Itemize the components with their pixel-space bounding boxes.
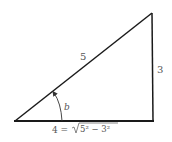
- hypotenuse-line: [15, 13, 152, 121]
- base-label-radicand: 5² − 3²: [80, 124, 110, 134]
- angle-label: b: [64, 102, 70, 112]
- angle-arc-icon: [54, 93, 62, 121]
- vertical-leg-label: 3: [157, 64, 163, 75]
- vertical-leg-line: [152, 13, 153, 121]
- base-label-prefix: 4 =: [52, 125, 71, 135]
- right-triangle-diagram: 5 3 b 4 = 5² − 3²: [0, 0, 172, 142]
- hypotenuse-label: 5: [80, 51, 86, 62]
